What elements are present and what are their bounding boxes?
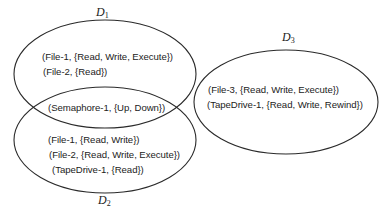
d2-entry-file-2: (File-2, {Read, Write, Execute}) [49,149,180,160]
domain-d1-label-text: D [96,5,105,19]
domain-d2-subscript: 2 [107,199,111,208]
d2-entry-tapedrive-1: (TapeDrive-1, {Read}) [52,164,144,175]
domain-d1-subscript: 1 [105,11,109,20]
domain-d3-label-text: D [282,30,291,44]
shared-entry-semaphore-1: (Semaphore-1, {Up, Down}) [48,102,165,113]
domain-d3-label: D3 [282,30,295,45]
d1-entry-file-2: (File-2, {Read}) [43,66,107,77]
domain-d2-label-text: D [98,193,107,207]
domain-d1-label: D1 [96,5,109,20]
domain-d2-label: D2 [98,193,111,208]
d3-entry-tapedrive-1: (TapeDrive-1, {Read, Write, Rewind}) [207,99,363,110]
d1-entry-file-1: (File-1, {Read, Write, Execute}) [42,51,173,62]
d2-entry-file-1: (File-1, {Read, Write}) [48,134,139,145]
d3-entry-file-3: (File-3, {Read, Write, Execute}) [208,84,339,95]
domain-d3-subscript: 3 [291,36,295,45]
